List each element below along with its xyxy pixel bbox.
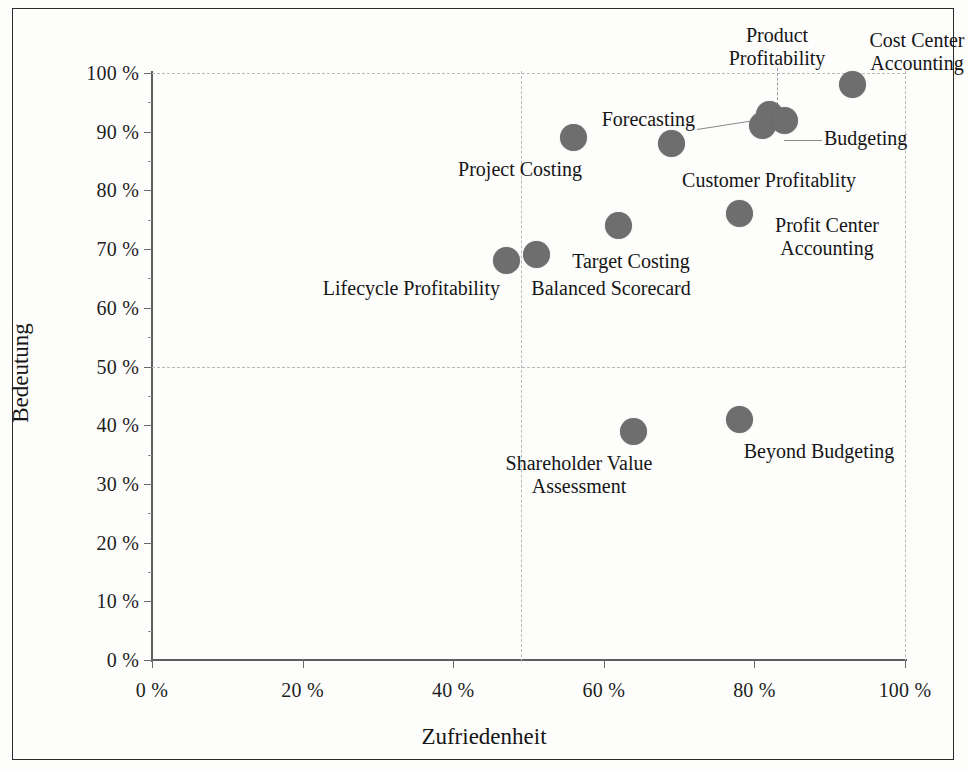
scatter-chart-figure: Zufriedenheit Bedeutung 100 % 90 % 80 % … [0, 0, 968, 772]
point-label-target-costing: Target Costing [572, 250, 690, 273]
cost-center-accounting-line1: Cost Center [870, 29, 965, 51]
point-label-beyond-budgeting: Beyond Budgeting [744, 440, 895, 463]
data-point-balanced-scorecard[interactable] [523, 241, 550, 268]
data-point-budgeting[interactable] [771, 107, 798, 134]
reference-line-50 [152, 367, 905, 368]
shareholder-value-line2: Assessment [532, 475, 626, 497]
point-label-customer-profitability: Customer Profitablity [682, 169, 856, 192]
plot-area: 100 % 90 % 80 % 70 % 60 % 50 % 4 [152, 73, 905, 660]
profit-center-accounting-line1: Profit Center [775, 214, 879, 236]
y-ticklabel-40: 40 % [97, 414, 139, 437]
data-point-cost-center-accounting[interactable] [839, 71, 866, 98]
y-ticklabel-100: 100 % [86, 62, 139, 85]
shareholder-value-line1: Shareholder Value [506, 452, 653, 474]
x-ticklabel-100: 100 % [879, 679, 932, 702]
data-point-shareholder-value-assessment[interactable] [620, 418, 647, 445]
data-point-forecasting[interactable] [658, 130, 685, 157]
point-label-forecasting: Forecasting [602, 108, 695, 131]
x-ticklabel-40: 40 % [432, 679, 474, 702]
y-ticklabel-30: 30 % [97, 472, 139, 495]
x-ticklabel-80: 80 % [733, 679, 775, 702]
product-profitability-line2: Profitability [729, 47, 826, 69]
point-label-shareholder-value-assessment: Shareholder ValueAssessment [506, 452, 653, 498]
point-label-balanced-scorecard: Balanced Scorecard [531, 277, 690, 300]
x-ticklabel-0: 0 % [136, 679, 168, 702]
data-point-beyond-budgeting[interactable] [726, 406, 753, 433]
product-profitability-line1: Product [746, 24, 808, 46]
leader-product-profitability [777, 68, 778, 105]
y-ticklabel-70: 70 % [97, 238, 139, 261]
x-ticklabel-60: 60 % [583, 679, 625, 702]
data-point-profit-center-accounting[interactable] [726, 200, 753, 227]
y-ticklabel-90: 90 % [97, 120, 139, 143]
y-ticklabel-50: 50 % [97, 355, 139, 378]
point-label-product-profitability: ProductProfitability [729, 24, 826, 70]
data-point-target-costing[interactable] [605, 212, 632, 239]
data-point-project-costing[interactable] [560, 124, 587, 151]
y-ticklabel-60: 60 % [97, 296, 139, 319]
point-label-budgeting: Budgeting [824, 127, 907, 150]
reference-line-100 [152, 73, 905, 74]
point-label-cost-center-accounting: Cost CenterAccounting [870, 29, 965, 75]
y-ticklabel-10: 10 % [97, 590, 139, 613]
x-ticklabel-20: 20 % [281, 679, 323, 702]
profit-center-accounting-line2: Accounting [780, 237, 873, 259]
cost-center-accounting-line2: Accounting [870, 52, 963, 74]
reference-line-x100 [905, 71, 906, 662]
y-ticklabel-20: 20 % [97, 531, 139, 554]
data-point-lifecycle-profitability[interactable] [493, 247, 520, 274]
leader-budgeting [784, 140, 822, 141]
x-axis-title: Zufriedenheit [0, 724, 968, 750]
point-label-profit-center-accounting: Profit CenterAccounting [775, 214, 879, 260]
point-label-project-costing: Project Costing [458, 158, 582, 181]
point-label-lifecycle-profitability: Lifecycle Profitability [323, 277, 500, 300]
y-ticklabel-0: 0 % [107, 649, 139, 672]
y-ticklabel-80: 80 % [97, 179, 139, 202]
y-axis-title: Bedeutung [8, 73, 34, 673]
